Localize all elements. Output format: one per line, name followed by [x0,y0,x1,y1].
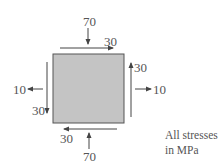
top-shear-label: 30 [104,35,117,48]
top-normal-label: 70 [83,15,96,28]
units-note: All stresses in MPa [165,128,218,158]
stress-element-square [53,54,124,123]
right-shear-label: 30 [134,61,147,74]
units-note-line1: All stresses [165,128,218,143]
left-shear-label: 30 [32,104,45,117]
units-note-line2: in MPa [165,143,218,158]
right-normal-label: 10 [153,83,166,96]
left-normal-label: 10 [13,83,26,96]
bottom-normal-label: 70 [83,150,96,163]
bottom-shear-label: 30 [60,132,73,145]
